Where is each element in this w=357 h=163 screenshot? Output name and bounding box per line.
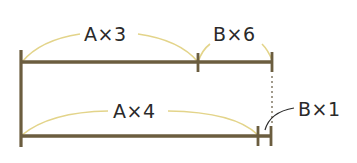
top-arc-b6-right [262, 44, 272, 60]
top-arc-a3-left [22, 34, 80, 62]
bottom-arc-a4-right [168, 111, 258, 135]
label-b6: B×6 [213, 25, 256, 44]
bar-model-diagram [0, 0, 357, 163]
label-a3: A×3 [84, 25, 127, 44]
label-b1: B×1 [298, 100, 341, 119]
b1-leader-line [265, 108, 294, 130]
top-arc-b6-left [198, 44, 210, 62]
top-arc-a3-right [138, 34, 198, 62]
bottom-arc-a4-left [22, 111, 108, 135]
label-a4: A×4 [113, 102, 156, 121]
